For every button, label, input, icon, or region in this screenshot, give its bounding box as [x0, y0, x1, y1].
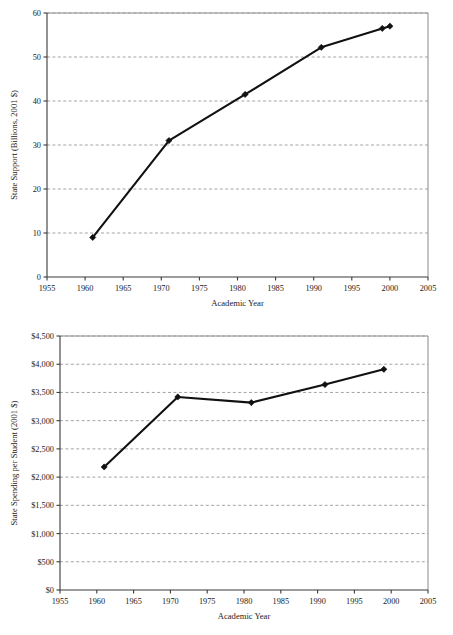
y-tick-label: 30	[33, 141, 41, 150]
x-tick-label: 1955	[39, 284, 56, 293]
x-axis-title: Academic Year	[211, 298, 264, 308]
x-tick-label: 2000	[383, 597, 400, 606]
y-tick-label: 0	[37, 273, 41, 282]
x-tick-label: 1955	[52, 597, 69, 606]
x-tick-label: 1970	[162, 597, 179, 606]
data-point-marker	[248, 400, 254, 406]
x-tick-label: 2005	[420, 284, 437, 293]
y-tick-label: $1,000	[31, 530, 54, 539]
chart-panel-state-spending-per-student: $0$500$1,000$1,500$2,000$2,500$3,000$3,5…	[0, 318, 453, 635]
y-tick-label: $3,000	[31, 417, 54, 426]
y-tick-label: 60	[33, 9, 41, 18]
x-tick-label: 2000	[382, 284, 399, 293]
x-tick-label: 1965	[125, 597, 142, 606]
x-axis-title: Academic Year	[218, 611, 271, 621]
y-tick-label: 20	[33, 185, 41, 194]
y-tick-label: 40	[33, 97, 41, 106]
y-tick-label: 50	[33, 53, 41, 62]
data-point-marker	[379, 25, 385, 31]
y-tick-label: $2,000	[31, 473, 54, 482]
x-tick-label: 2005	[420, 597, 437, 606]
x-tick-label: 1975	[199, 597, 216, 606]
y-tick-label: $0	[46, 586, 54, 595]
y-tick-label: 10	[33, 229, 41, 238]
x-tick-label: 1990	[305, 284, 322, 293]
x-tick-label: 1960	[77, 284, 94, 293]
x-tick-label: 1980	[236, 597, 253, 606]
y-tick-label: $3,500	[31, 388, 54, 397]
state-support-line-chart: 0102030405060195519601965197019751980198…	[0, 0, 453, 318]
x-tick-label: 1985	[267, 284, 284, 293]
x-tick-label: 1980	[229, 284, 246, 293]
y-tick-label: $4,500	[31, 332, 54, 341]
plot-frame	[60, 336, 428, 590]
x-tick-label: 1975	[191, 284, 208, 293]
chart-panel-state-support: 0102030405060195519601965197019751980198…	[0, 0, 453, 318]
data-point-marker	[322, 381, 328, 387]
y-axis-title: State Spending per Student (2001 $)	[9, 400, 19, 525]
x-tick-label: 1965	[115, 284, 132, 293]
data-series-line	[93, 26, 390, 237]
x-tick-label: 1970	[153, 284, 170, 293]
data-point-marker	[381, 366, 387, 372]
state-spending-per-student-line-chart: $0$500$1,000$1,500$2,000$2,500$3,000$3,5…	[0, 318, 453, 635]
y-axis-title: State Support (Billions, 2001 $)	[9, 90, 19, 200]
x-tick-label: 1985	[273, 597, 290, 606]
x-tick-label: 1995	[344, 284, 361, 293]
y-tick-label: $2,500	[31, 445, 54, 454]
x-tick-label: 1995	[346, 597, 363, 606]
x-tick-label: 1960	[89, 597, 106, 606]
y-tick-label: $500	[37, 558, 54, 567]
y-tick-label: $4,000	[31, 360, 54, 369]
data-point-marker	[387, 23, 393, 29]
x-tick-label: 1990	[309, 597, 326, 606]
y-tick-label: $1,500	[31, 501, 54, 510]
data-series-line	[104, 369, 384, 467]
